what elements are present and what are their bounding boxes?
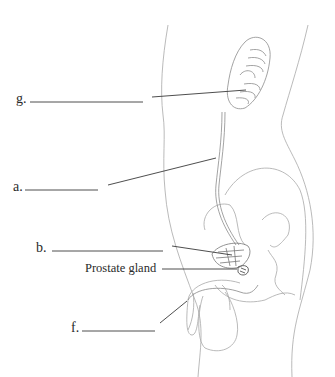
bladder (212, 243, 250, 268)
label-g: g. (16, 92, 27, 106)
label-b: b. (36, 241, 47, 255)
kidney (227, 37, 270, 109)
leader-lines (25, 90, 246, 331)
label-prostate-gland: Prostate gland (85, 262, 156, 275)
label-a: a. (13, 180, 23, 194)
scrotum-outline (199, 292, 238, 351)
label-f: f. (71, 321, 79, 335)
body-outline-front (281, 25, 313, 377)
ureter (216, 112, 239, 245)
anatomy-illustration (0, 0, 335, 377)
body-outline-back (162, 25, 201, 377)
anatomy-diagram: g. a. b. Prostate gland f. (0, 0, 335, 377)
